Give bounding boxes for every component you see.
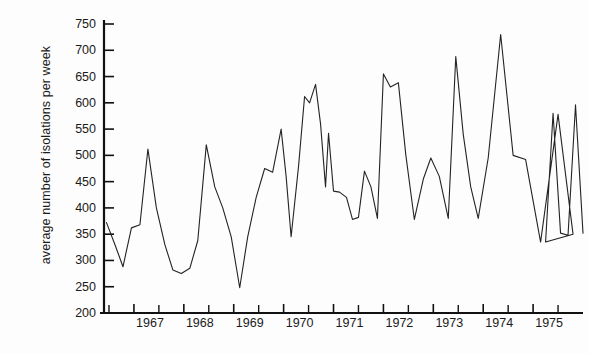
x-tick-label-1972: 1972 (386, 316, 414, 330)
x-tick-label-1975: 1975 (535, 316, 563, 330)
x-tick-label-1970: 1970 (286, 316, 314, 330)
x-tick-label-1971: 1971 (336, 316, 364, 330)
x-tick-label-1974: 1974 (485, 316, 513, 330)
data-line-series-1 (106, 35, 583, 288)
x-tick-label-1967: 1967 (136, 316, 164, 330)
x-tick-marks (109, 304, 558, 313)
x-tick-label-1969: 1969 (236, 316, 264, 330)
x-tick-label-1968: 1968 (186, 316, 214, 330)
y-tick-marks (104, 24, 114, 313)
chart-figure: average number of isolations per week 20… (0, 0, 589, 354)
plot-area (0, 0, 589, 354)
x-tick-label-1973: 1973 (435, 316, 463, 330)
